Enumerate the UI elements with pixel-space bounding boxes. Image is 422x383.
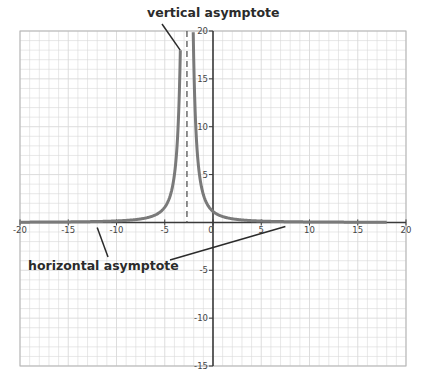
x-tick-label: 20 — [401, 225, 412, 235]
y-tick-label: 15 — [197, 74, 208, 84]
x-tick-label: 10 — [304, 225, 315, 235]
x-tick-label: -5 — [161, 225, 169, 235]
x-tick-label: 0 — [208, 225, 213, 235]
x-tick-label: 15 — [352, 225, 363, 235]
x-tick-label: -10 — [110, 225, 124, 235]
horizontal-asymptote-pointer-right — [170, 226, 285, 260]
y-tick-label: 20 — [197, 26, 208, 36]
y-tick-label: -5 — [200, 265, 208, 275]
vertical-asymptote-label: vertical asymptote — [147, 5, 280, 20]
x-tick-label: -20 — [13, 225, 27, 235]
y-tick-label: -10 — [194, 313, 208, 323]
horizontal-asymptote-label: horizontal asymptote — [28, 258, 179, 273]
y-tick-label: 10 — [197, 122, 208, 132]
rational-function-graph: -20-15-10-505101520-15-10-55101520 verti… — [0, 0, 422, 383]
y-tick-label: 5 — [203, 170, 208, 180]
y-tick-label: -15 — [194, 361, 208, 371]
x-tick-label: -15 — [61, 225, 75, 235]
